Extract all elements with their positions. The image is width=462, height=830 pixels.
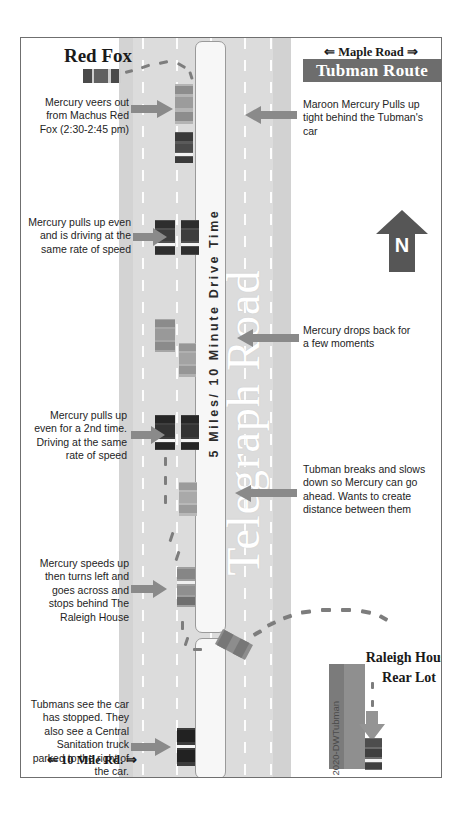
caption-speeds-up-turns-left: Mercury speeds up then turns left and go… [27,557,129,624]
lane-divider-1 [142,38,144,778]
vehicle-tubman-car [175,84,193,124]
arrow-down-rear-lot [359,711,385,741]
caption-pulls-up-even-2nd: Mercury pulls up even for a 2nd time. Dr… [31,409,127,463]
drive-time-panel-lower [195,638,226,778]
caption-tubman-breaks: Tubman breaks and slows down so Mercury … [303,463,433,517]
machus-red-fox-building [83,69,121,83]
vehicle-tubman-car [177,728,195,766]
copyright-text: © Copyright 2020-DWTubman [330,669,341,779]
caption-pulls-up-even: Mercury pulls up even and is driving at … [21,216,131,256]
arrow-right-speeds-up [131,580,167,598]
path-dash [301,609,311,614]
path-dash [341,608,351,612]
north-arrow: N [373,208,431,274]
caption-maroon-pulls-tight: Maroon Mercury Pulls up tight behind the… [303,98,431,138]
vehicle-tubman-car [155,319,175,352]
tubman-route-banner: Tubman Route [303,59,441,82]
path-dash [379,614,389,622]
path-dash [371,682,374,689]
maple-road-label: ⇐ Maple Road ⇒ [305,44,437,60]
path-dash [321,608,331,612]
path-dash [181,621,184,630]
path-dash [164,495,167,504]
vehicle-tubman-car [181,220,199,255]
path-dash [193,648,202,651]
drive-time-label: 5 Miles/ 10 Minute Drive Time [207,53,221,613]
lane-divider-5 [270,38,272,778]
copyright-wrap: © Copyright 2020-DWTubman [299,658,315,778]
vehicle-tubman-car [181,415,199,450]
arrow-left-tubman-breaks [235,485,297,502]
arrow-right-pulls-up-even-2nd [131,426,165,444]
arrow-left-drops-back [237,329,299,347]
vehicle-mercury [177,567,195,607]
path-dash [361,609,372,615]
vehicle-tubman-car [179,482,197,516]
arrow-right-pulls-up-even [133,228,167,246]
caption-veers-out: Mercury veers out from Machus Red Fox (2… [29,96,129,136]
path-dash [164,476,167,485]
red-fox-title: Red Fox [43,45,153,67]
north-arrow-label: N [373,234,431,257]
path-dash [371,700,374,707]
arrow-left-maroon-pulls-tight [245,106,297,124]
vehicle-mercury [175,132,193,163]
map-frame: Telegraph Road 5 Miles/ 10 Minute Drive … [20,37,442,778]
path-dash [164,457,167,466]
vehicle-mercury-parked [365,738,382,770]
lane-divider-4 [244,38,246,778]
road-shoulder-right [273,38,291,778]
arrow-right-veers-out [131,100,173,118]
vehicle-mercury [179,343,196,377]
tubman-route-banner-text: Tubman Route [316,61,428,81]
caption-drops-back: Mercury drops back for a few moments [303,324,413,351]
road-shoulder-left [119,38,133,778]
diagram-canvas: Telegraph Road 5 Miles/ 10 Minute Drive … [0,0,462,830]
ten-mile-road-label: ⇐ 10 Mile Rd. ⇒ [33,752,151,768]
drive-time-panel: 5 Miles/ 10 Minute Drive Time [195,41,226,633]
